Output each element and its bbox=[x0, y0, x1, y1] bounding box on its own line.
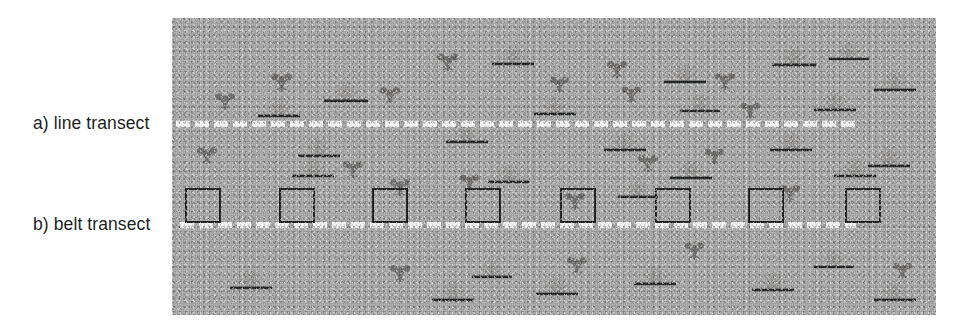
grass-plant-icon bbox=[872, 70, 918, 96]
grass-plant-icon bbox=[812, 90, 858, 116]
quadrat-square bbox=[185, 188, 221, 223]
clover-plant-icon bbox=[434, 46, 461, 73]
clover-plant-icon bbox=[268, 66, 295, 93]
clover-plant-icon bbox=[619, 80, 644, 105]
grass-plant-icon bbox=[290, 156, 336, 182]
grass-plant-icon bbox=[866, 146, 912, 172]
grass-plant-icon bbox=[532, 94, 578, 120]
clover-plant-icon bbox=[564, 250, 590, 276]
quadrat-square bbox=[279, 188, 315, 223]
clover-plant-icon bbox=[212, 86, 238, 112]
grass-plant-icon bbox=[750, 270, 796, 296]
quadrat-square bbox=[560, 188, 596, 223]
clover-plant-icon bbox=[547, 70, 572, 95]
grass-plant-icon bbox=[662, 62, 708, 88]
grass-plant-icon bbox=[770, 44, 818, 71]
grass-plant-icon bbox=[768, 130, 814, 156]
grass-plant-icon bbox=[228, 268, 274, 294]
grass-plant-icon bbox=[322, 80, 370, 107]
clover-plant-icon bbox=[340, 154, 366, 180]
line-transect-label: a) line transect bbox=[33, 115, 149, 133]
clover-plant-icon bbox=[712, 66, 738, 92]
grass-plant-icon bbox=[872, 280, 918, 306]
clover-plant-icon bbox=[377, 80, 403, 106]
grass-plant-icon bbox=[470, 258, 514, 283]
quadrat-square bbox=[845, 188, 881, 223]
clover-plant-icon bbox=[387, 258, 413, 284]
clover-plant-icon bbox=[890, 256, 915, 281]
clover-plant-icon bbox=[604, 54, 630, 80]
clover-plant-icon bbox=[194, 140, 220, 166]
belt-transect-label: b) belt transect bbox=[33, 216, 150, 234]
grass-plant-icon bbox=[616, 178, 660, 203]
grass-plant-icon bbox=[678, 92, 722, 117]
grass-plant-icon bbox=[827, 40, 871, 65]
quadrat-square bbox=[372, 188, 408, 223]
quadrat-square bbox=[748, 188, 784, 223]
quadrat-square bbox=[465, 188, 501, 223]
clover-plant-icon bbox=[682, 236, 707, 261]
grass-plant-icon bbox=[602, 130, 648, 156]
line-transect-dashed-line bbox=[176, 121, 858, 127]
transect-figure: a) line transect b) belt transect bbox=[0, 0, 966, 333]
habitat-panel bbox=[172, 18, 936, 315]
quadrat-square bbox=[655, 188, 691, 223]
grass-plant-icon bbox=[490, 44, 536, 70]
grass-plant-icon bbox=[812, 248, 856, 273]
grass-plant-icon bbox=[632, 264, 678, 290]
grass-plant-icon bbox=[256, 96, 302, 122]
grass-plant-icon bbox=[430, 280, 476, 306]
clover-plant-icon bbox=[738, 96, 763, 121]
grass-plant-icon bbox=[486, 162, 532, 188]
grass-plant-icon bbox=[534, 274, 580, 300]
grass-plant-icon bbox=[668, 158, 714, 184]
